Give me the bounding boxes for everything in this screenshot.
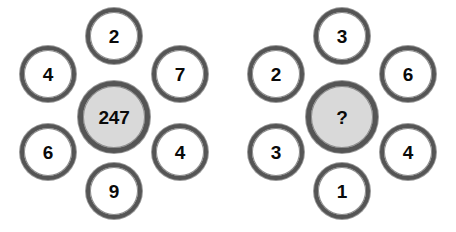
left-satellite-bottom: 9 <box>86 163 142 219</box>
left-satellite-lower-left: 6 <box>20 124 76 180</box>
right-satellite-bottom: 1 <box>314 163 370 219</box>
left-puzzle-group: 247 2 7 4 9 6 4 <box>0 0 228 232</box>
right-satellite-lower-right: 4 <box>380 124 436 180</box>
right-puzzle-group: ? 3 6 4 1 3 2 <box>228 0 456 232</box>
right-satellite-upper-right: 6 <box>380 46 436 102</box>
left-satellite-top: 2 <box>86 8 142 64</box>
left-satellite-lower-right: 4 <box>152 124 208 180</box>
left-satellite-upper-left: 4 <box>20 46 76 102</box>
right-satellite-top: 3 <box>314 8 370 64</box>
right-center-node-unknown: ? <box>306 81 378 153</box>
right-satellite-upper-left: 2 <box>248 46 304 102</box>
right-satellite-lower-left: 3 <box>248 124 304 180</box>
left-satellite-upper-right: 7 <box>152 46 208 102</box>
left-center-node: 247 <box>78 81 150 153</box>
puzzle-canvas: 247 2 7 4 9 6 4 ? 3 6 4 1 3 2 <box>0 0 456 232</box>
